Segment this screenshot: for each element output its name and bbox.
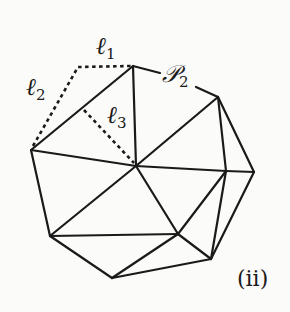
edge-D-E <box>136 166 226 171</box>
edge-E-H <box>178 171 226 234</box>
edge-A-D <box>133 66 136 166</box>
edge-H-I <box>178 234 211 259</box>
label-p2: 𝒫2 <box>162 62 189 86</box>
figure-tag: (ii) <box>237 268 268 290</box>
edge-D-G <box>50 166 136 236</box>
edge-C-D <box>31 150 136 166</box>
label-l3: ℓ3 <box>107 103 127 127</box>
edge-E-F <box>226 171 254 172</box>
triangulated-polygon-figure: ℓ1 ℓ2 ℓ3 𝒫2 (ii) <box>0 0 290 312</box>
edge-D-H <box>136 166 178 234</box>
edge-B-D <box>136 97 218 166</box>
label-l2: ℓ2 <box>26 75 46 99</box>
edge-C-G <box>31 150 50 236</box>
edge-A-B-left <box>133 66 160 73</box>
edge-G-H <box>50 234 178 236</box>
edge-B-E <box>218 97 226 171</box>
edge-A-B-right <box>196 87 218 97</box>
edge-G-J <box>50 236 112 278</box>
label-l1: ℓ1 <box>96 34 116 58</box>
edge-B-F <box>218 97 254 172</box>
solid-edges <box>31 66 254 278</box>
